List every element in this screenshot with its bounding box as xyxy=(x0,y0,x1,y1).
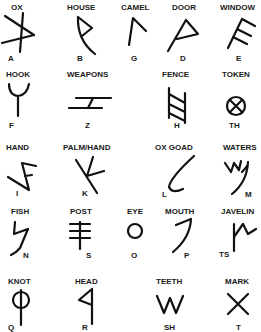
sign-letter: T xyxy=(236,323,241,332)
